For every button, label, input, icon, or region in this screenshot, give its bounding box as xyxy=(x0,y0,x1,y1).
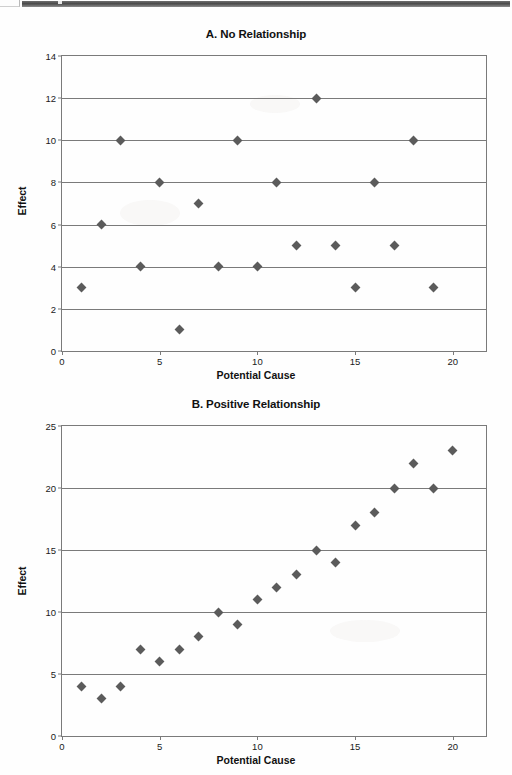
y-tick-mark-b xyxy=(58,426,62,427)
data-point xyxy=(96,694,106,704)
page-canvas: A. No Relationship Effect 02468101214051… xyxy=(0,0,512,775)
chart-panel-b: B. Positive Relationship Effect 05101520… xyxy=(0,398,512,775)
gridline-b xyxy=(62,612,486,613)
x-tick-mark-a xyxy=(453,351,454,355)
data-point xyxy=(194,199,204,209)
y-tick-label-b: 5 xyxy=(51,669,56,680)
y-tick-mark-b xyxy=(58,674,62,675)
data-point xyxy=(331,241,341,251)
data-point xyxy=(77,283,87,293)
data-point xyxy=(350,520,360,530)
y-tick-mark-b xyxy=(58,550,62,551)
x-tick-mark-a xyxy=(160,351,161,355)
data-point xyxy=(311,93,321,103)
chart-a-plot-area: 0246810121405101520 xyxy=(61,55,487,352)
data-point xyxy=(389,241,399,251)
y-tick-label-a: 6 xyxy=(51,219,56,230)
chart-panel-a: A. No Relationship Effect 02468101214051… xyxy=(0,28,512,388)
data-point xyxy=(252,595,262,605)
data-point xyxy=(213,262,223,272)
page-edge-artifact xyxy=(0,0,512,10)
gridline-a xyxy=(62,98,486,99)
page-edge-nick xyxy=(58,1,62,4)
chart-a-y-axis-label: Effect xyxy=(16,171,28,231)
y-tick-label-a: 12 xyxy=(45,93,56,104)
x-tick-mark-a xyxy=(257,351,258,355)
x-tick-mark-b xyxy=(355,736,356,740)
data-point xyxy=(311,545,321,555)
y-tick-label-b: 25 xyxy=(45,421,56,432)
data-point xyxy=(135,644,145,654)
data-point xyxy=(428,283,438,293)
data-point xyxy=(174,644,184,654)
x-tick-mark-b xyxy=(62,736,63,740)
data-point xyxy=(252,262,262,272)
data-point xyxy=(77,681,87,691)
x-tick-label-a: 15 xyxy=(350,356,361,367)
gridline-a xyxy=(62,140,486,141)
page-edge-shadow xyxy=(22,1,510,7)
data-point xyxy=(135,262,145,272)
data-point xyxy=(174,325,184,335)
data-point xyxy=(155,177,165,187)
data-point xyxy=(213,607,223,617)
y-tick-label-a: 4 xyxy=(51,261,56,272)
y-tick-mark-a xyxy=(58,140,62,141)
data-point xyxy=(233,619,243,629)
chart-a-title: A. No Relationship xyxy=(0,28,512,40)
data-point xyxy=(155,657,165,667)
gridline-a xyxy=(62,309,486,310)
gridline-b xyxy=(62,550,486,551)
page-corner-mark xyxy=(0,0,20,7)
x-tick-label-a: 0 xyxy=(59,356,64,367)
y-tick-label-b: 20 xyxy=(45,483,56,494)
y-tick-mark-a xyxy=(58,224,62,225)
y-tick-mark-a xyxy=(58,266,62,267)
chart-b-plot-area: 051015202505101520 xyxy=(61,425,487,737)
data-point xyxy=(409,458,419,468)
chart-b-x-axis-label: Potential Cause xyxy=(0,754,512,766)
chart-b-title: B. Positive Relationship xyxy=(0,398,512,410)
x-tick-label-b: 5 xyxy=(157,741,162,752)
data-point xyxy=(292,570,302,580)
gridline-a xyxy=(62,225,486,226)
data-point xyxy=(96,220,106,230)
gridline-a xyxy=(62,267,486,268)
x-tick-label-b: 15 xyxy=(350,741,361,752)
data-point xyxy=(116,135,126,145)
data-point xyxy=(194,632,204,642)
y-tick-mark-a xyxy=(58,182,62,183)
data-point xyxy=(233,135,243,145)
y-tick-mark-a xyxy=(58,98,62,99)
y-tick-mark-a xyxy=(58,308,62,309)
x-tick-label-b: 0 xyxy=(59,741,64,752)
x-tick-mark-b xyxy=(257,736,258,740)
y-tick-label-a: 14 xyxy=(45,51,56,62)
data-point xyxy=(409,135,419,145)
data-point xyxy=(428,483,438,493)
chart-a-x-axis-label: Potential Cause xyxy=(0,369,512,381)
data-point xyxy=(448,446,458,456)
data-point xyxy=(389,483,399,493)
x-tick-label-b: 10 xyxy=(252,741,263,752)
data-point xyxy=(272,582,282,592)
y-tick-mark-b xyxy=(58,488,62,489)
data-point xyxy=(350,283,360,293)
x-tick-mark-b xyxy=(160,736,161,740)
y-tick-mark-a xyxy=(58,56,62,57)
data-point xyxy=(331,557,341,567)
data-point xyxy=(370,508,380,518)
x-tick-label-a: 20 xyxy=(447,356,458,367)
y-tick-label-b: 10 xyxy=(45,607,56,618)
x-tick-label-a: 10 xyxy=(252,356,263,367)
x-tick-mark-a xyxy=(355,351,356,355)
y-tick-mark-b xyxy=(58,612,62,613)
y-tick-label-a: 10 xyxy=(45,135,56,146)
data-point xyxy=(272,177,282,187)
y-tick-label-a: 0 xyxy=(51,346,56,357)
gridline-b xyxy=(62,488,486,489)
x-tick-mark-a xyxy=(62,351,63,355)
y-tick-label-b: 0 xyxy=(51,731,56,742)
data-point xyxy=(370,177,380,187)
y-tick-label-a: 8 xyxy=(51,177,56,188)
